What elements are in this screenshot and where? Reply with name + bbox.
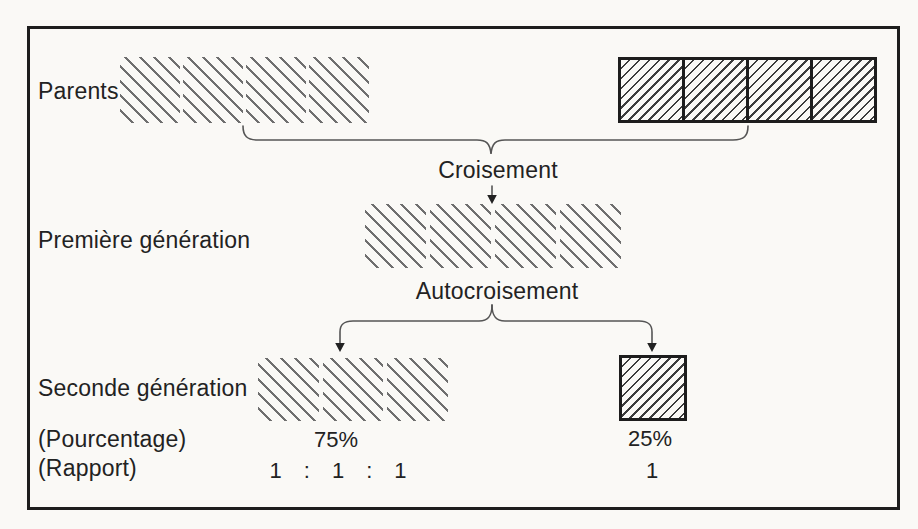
ratio-separator: : <box>304 460 310 482</box>
hatched-segment <box>746 60 810 120</box>
hatched-segment <box>621 60 682 120</box>
hatched-segment <box>246 57 306 123</box>
second-generation-minority-box <box>619 355 687 421</box>
first-generation-label: Première génération <box>38 227 250 253</box>
percent-majority-value: 75% <box>314 429 358 451</box>
ratio-separator: : <box>366 460 372 482</box>
ratio-minority-value: 1 <box>646 460 658 482</box>
second-generation-majority-block <box>258 358 448 421</box>
second-generation-label: Seconde génération <box>38 375 248 401</box>
autocroisement-label: Autocroisement <box>416 278 579 304</box>
hatched-segment <box>258 358 319 421</box>
first-generation-block <box>365 204 621 268</box>
hatched-segment <box>120 57 180 123</box>
percent-minority-value: 25% <box>628 428 672 450</box>
parents-label: Parents <box>38 78 119 104</box>
figure-genetics-cross: Parents Croisement Première génération A… <box>0 0 918 529</box>
hatched-segment <box>323 358 384 421</box>
hatched-segment <box>810 60 874 120</box>
parent-right-block <box>618 57 877 123</box>
hatched-segment <box>430 204 491 268</box>
ratio-majority-values: 1 : 1 : 1 <box>270 460 407 482</box>
ratio-value: 1 <box>394 460 406 482</box>
hatched-segment <box>309 57 369 123</box>
percentage-row-label: (Pourcentage) <box>38 426 186 452</box>
parent-left-block <box>120 57 369 123</box>
hatched-segment <box>365 204 426 268</box>
hatched-segment <box>183 57 243 123</box>
hatched-segment <box>495 204 556 268</box>
ratio-value: 1 <box>332 460 344 482</box>
hatched-segment <box>560 204 621 268</box>
hatched-segment <box>387 358 448 421</box>
hatched-segment <box>682 60 746 120</box>
ratio-value: 1 <box>270 460 282 482</box>
croisement-label: Croisement <box>438 157 558 183</box>
ratio-row-label: (Rapport) <box>38 455 137 481</box>
